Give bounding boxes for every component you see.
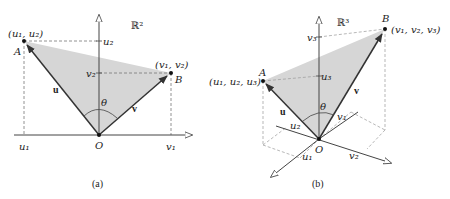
tick-v2: v₂ xyxy=(86,68,96,79)
angle-label: θ xyxy=(320,101,326,112)
origin-label: O xyxy=(315,144,323,155)
vector-v-label: v xyxy=(132,103,137,114)
triangle-fill xyxy=(263,29,385,139)
space-label-r3: ℝ³ xyxy=(337,17,349,28)
y-axis-v2 xyxy=(276,126,391,163)
point-b-name: B xyxy=(174,74,182,85)
point-b-dot xyxy=(383,27,387,31)
angle-label: θ xyxy=(101,97,107,108)
tick-v1: v₁ xyxy=(166,141,176,152)
tick-v3: v₃ xyxy=(307,32,317,43)
point-a-name: A xyxy=(13,46,21,57)
origin-label: O xyxy=(95,140,103,151)
triangle-fill xyxy=(24,41,171,135)
vector-u-label: u xyxy=(280,106,286,117)
space-label-r2: ℝ² xyxy=(131,20,143,31)
caption-b: (b) xyxy=(312,178,324,190)
tick-v2: v₂ xyxy=(349,150,359,161)
tick-u2: u₂ xyxy=(103,36,113,47)
caption-a: (a) xyxy=(92,178,103,190)
vector-u-label: u xyxy=(53,84,59,95)
figure-canvas: ℝ² (u₁, u₂) A (v₁, v₂) B u₂ v₂ u₁ v₁ O u… xyxy=(0,0,450,199)
point-a-dot xyxy=(22,39,26,43)
figure-a: ℝ² (u₁, u₂) A (v₁, v₂) B u₂ v₂ u₁ v₁ O u… xyxy=(8,15,192,190)
origin-dot xyxy=(317,137,321,141)
point-a-coords: (u₁, u₂, u₃) xyxy=(209,76,261,87)
point-b-coords: (v₁, v₂) xyxy=(155,59,189,70)
vector-v-label: v xyxy=(354,85,359,96)
point-a-coords: (u₁, u₂) xyxy=(8,28,43,39)
point-b-name: B xyxy=(381,13,389,24)
tick-u1: u₁ xyxy=(302,151,312,162)
figure-b: ℝ³ B (v₁, v₂, v₃) A (u₁, u₂, u₃) v₃ u₃ v… xyxy=(209,13,441,190)
point-b-dot xyxy=(169,71,173,75)
point-a-dot xyxy=(261,79,265,83)
origin-dot xyxy=(97,133,101,137)
tick-u1: u₁ xyxy=(19,141,29,152)
tick-v1: v₁ xyxy=(337,111,347,122)
tick-u2: u₂ xyxy=(290,120,300,131)
point-b-coords: (v₁, v₂, v₃) xyxy=(391,24,441,35)
tick-u3: u₃ xyxy=(321,71,331,82)
